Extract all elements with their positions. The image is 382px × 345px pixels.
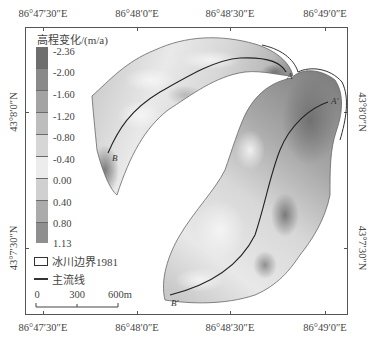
scale-bar [0, 0, 382, 345]
